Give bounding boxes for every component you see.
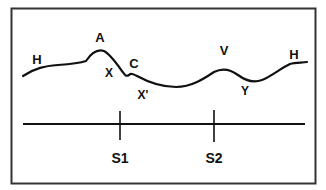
wave-label-v: V	[220, 43, 229, 58]
wave-label-y: Y	[241, 84, 249, 98]
wave-label-h-left: H	[32, 52, 41, 67]
axis-label-s1: S1	[111, 150, 128, 166]
wave-label-h-right: H	[289, 47, 298, 62]
wave-label-a: A	[95, 30, 105, 45]
wave-label-x: X	[105, 66, 113, 80]
wave-label-x-prime: X'	[138, 88, 149, 102]
wave-label-c: C	[129, 56, 139, 71]
axis-label-s2: S2	[205, 150, 222, 166]
diagram-frame	[12, 9, 316, 184]
diagram-canvas: HAXCX'VYH S1S2	[0, 0, 326, 190]
